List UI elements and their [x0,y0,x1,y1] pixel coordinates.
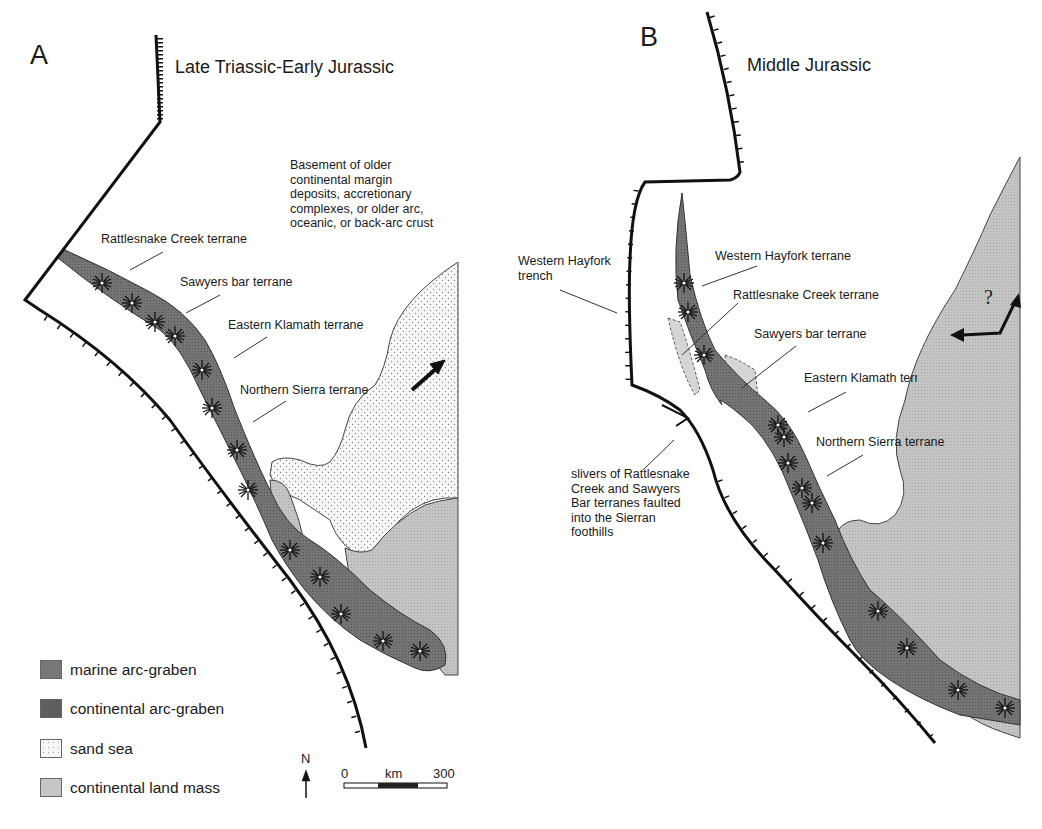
label-northern-sierra-b: Northern Sierra terrane [816,435,945,449]
label-western-hayfork-b: Western Hayfork terrane [715,249,851,263]
label-sawyers-bar-a: Sawyers bar terrane [180,275,293,289]
label-rattlesnake-creek-b: Rattlesnake Creek terrane [733,288,879,302]
scale-start: 0 [341,766,348,781]
label-northern-sierra-a: Northern Sierra terrane [240,383,369,397]
legend-item-continental-arc-graben: continental arc-graben [40,699,224,718]
legend-label: marine arc-graben [70,661,197,679]
panel-a-map [25,35,458,798]
scale-unit: km [385,766,402,781]
label-eastern-klamath-b: Eastern Klamath terrane [804,371,917,385]
continental-land-mass-swatch [40,778,62,797]
label-western-hayfork-trench: Western Hayfork trench [518,254,618,283]
legend-item-marine-arc-graben: marine arc-graben [40,660,197,679]
label-sawyers-bar-b: Sawyers bar terrane [754,327,867,341]
legend-item-sand-sea: sand sea [40,739,133,758]
label-rattlesnake-creek-a: Rattlesnake Creek terrane [101,232,247,246]
panel-b-letter: B [640,22,658,53]
slivers-note: slivers of Rattlesnake Creek and Sawyers… [571,467,691,540]
legend-label: continental land mass [70,779,220,797]
uncertainty-mark: ? [984,286,993,309]
north-arrow-graphic [302,770,310,798]
sand-sea-swatch [40,739,62,758]
panel-b-map [560,12,1021,743]
scale-end: 300 [433,766,455,781]
continental-arc-graben-swatch [40,699,62,718]
label-eastern-klamath-a: Eastern Klamath terrane [228,318,364,332]
marine-arc-graben-swatch [40,660,62,679]
scale-bar-graphic [344,783,447,788]
panel-a-letter: A [30,40,48,71]
legend-item-continental-land-mass: continental land mass [40,778,220,797]
legend-label: continental arc-graben [70,700,224,718]
basement-note: Basement of older continental margin dep… [290,158,440,231]
panel-b-title: Middle Jurassic [747,55,871,76]
legend-label: sand sea [70,740,133,758]
north-label: N [301,751,310,766]
panel-a-title: Late Triassic-Early Jurassic [175,57,394,78]
